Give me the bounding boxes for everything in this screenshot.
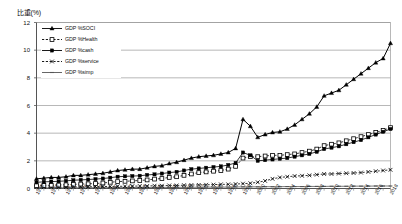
x-axis-tick-label: 2014: [360, 183, 370, 195]
x-axis-tick-label: 2010: [330, 183, 340, 195]
legend-marker-square-open: [41, 34, 63, 45]
legend-item-label: GDP %Health: [63, 34, 97, 45]
legend-item: GDP %cash: [41, 45, 121, 56]
legend-marker-dash: [41, 67, 63, 78]
x-axis-tick-label: 1972: [50, 183, 60, 195]
x-axis-tick-label: 1974: [65, 183, 75, 195]
chart-container: 比重(%) 024681012 197019721974197619781980…: [0, 0, 402, 224]
legend-marker-cross: [41, 56, 63, 67]
x-axis-tick-label: 2012: [345, 183, 355, 195]
x-axis-tick-label: 2006: [301, 183, 311, 195]
x-axis-tick-label: 1990: [183, 183, 193, 195]
x-axis-tick-label: 2004: [286, 183, 296, 195]
x-axis-tick-label: 1986: [153, 183, 163, 195]
chart-legend: GDP %SOCIGDP %HealthGDP %cashGDP %servic…: [41, 23, 121, 78]
x-axis-tick-label: 1992: [197, 183, 207, 195]
x-axis-tick-label: 1976: [79, 183, 89, 195]
x-axis-tick-label: 2000: [256, 183, 266, 195]
x-axis-tick-label: 1984: [138, 183, 148, 195]
legend-item: GDP %service: [41, 56, 121, 67]
x-axis-tick-label: 2002: [271, 183, 281, 195]
legend-item-label: GDP %SOCI: [63, 23, 95, 34]
x-axis-tick-label: 1980: [109, 183, 119, 195]
legend-item-label: GDP %cash: [63, 45, 93, 56]
legend-item: GDP %SOCI: [41, 23, 121, 34]
legend-item: GDP %Health: [41, 34, 121, 45]
x-axis-tick-label: 2018: [389, 183, 399, 195]
x-axis-tick-label: 1978: [94, 183, 104, 195]
legend-marker-triangle-filled: [41, 23, 63, 34]
legend-item-label: GDP %simp: [63, 67, 93, 78]
x-axis-tick-label: 2016: [374, 183, 384, 195]
legend-item-label: GDP %service: [63, 56, 99, 67]
x-axis-tick-label: 1996: [227, 183, 237, 195]
x-axis-tick-label: 1994: [212, 183, 222, 195]
x-axis-tick-label: 2008: [315, 183, 325, 195]
legend-marker-square-filled: [41, 45, 63, 56]
x-axis-tick-label: 1982: [124, 183, 134, 195]
x-axis-tick-label: 1988: [168, 183, 178, 195]
legend-item: GDP %simp: [41, 67, 121, 78]
x-axis-tick-label: 1998: [242, 183, 252, 195]
x-axis-tick-label: 1970: [35, 183, 45, 195]
